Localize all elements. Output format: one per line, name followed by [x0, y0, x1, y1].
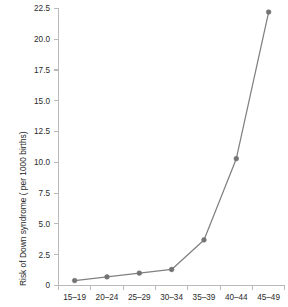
x-axis-ticks [59, 286, 285, 291]
chart-container: Risk of Down syndrome ( per 1000 births)… [0, 0, 288, 307]
y-tick-label: 5.0 [39, 220, 51, 229]
x-tick-label: 40–44 [225, 293, 248, 302]
x-axis-labels: 15–19 20–24 25–29 30–34 35–39 40–44 45–4… [63, 293, 280, 302]
data-line-series [75, 12, 269, 280]
y-tick-label: 17.5 [34, 66, 50, 75]
y-tick-label: 7.5 [39, 189, 51, 198]
line-chart: Risk of Down syndrome ( per 1000 births)… [0, 0, 288, 307]
x-tick-label: 30–34 [160, 293, 183, 302]
data-point-45–49 [266, 10, 271, 15]
y-tick-label: 2.5 [39, 251, 51, 260]
x-tick-label: 35–39 [193, 293, 216, 302]
data-point-35–39 [202, 238, 207, 243]
y-tick-label: 10.0 [34, 158, 50, 167]
y-tick-label: 12.5 [34, 127, 50, 136]
y-tick-label: 15.0 [34, 97, 50, 106]
x-tick-label: 25–29 [128, 293, 151, 302]
x-tick-label: 15–19 [63, 293, 86, 302]
data-point-30–34 [169, 267, 174, 272]
data-point-40–44 [234, 156, 239, 161]
data-point-markers [72, 10, 271, 283]
data-point-20–24 [105, 274, 110, 279]
y-axis-ticks: 0 2.5 5.0 7.5 10.0 12.5 15.0 17.5 20.0 2… [34, 4, 58, 290]
y-tick-label: 22.5 [34, 4, 50, 13]
data-point-15–19 [72, 278, 77, 283]
data-point-25–29 [137, 271, 142, 276]
x-tick-label: 20–24 [96, 293, 119, 302]
y-tick-label: 0 [45, 281, 50, 290]
y-axis-title: Risk of Down syndrome ( per 1000 births) [18, 131, 28, 286]
y-tick-label: 20.0 [34, 35, 50, 44]
x-tick-label: 45–49 [257, 293, 280, 302]
